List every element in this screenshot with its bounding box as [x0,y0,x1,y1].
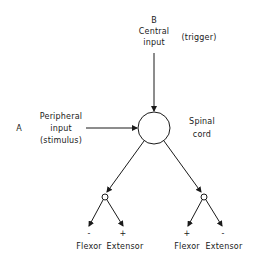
left-flexor-arrow [89,200,103,226]
peripheral-input-line2: input [36,124,86,133]
spinal-cord-line1: Spinal [184,117,220,126]
left-extensor-label: Extensor [105,242,145,251]
peripheral-input-letter: A [13,124,25,133]
central-input-note: (trigger) [178,33,220,42]
peripheral-input-line1: Peripheral [36,112,86,121]
left-motor-arrow [107,141,144,192]
right-branch-node [201,194,207,200]
left-extensor-sign: + [117,229,129,238]
left-branch-node [102,194,108,200]
right-flexor-label: Flexor [170,242,204,251]
right-motor-arrow [164,141,201,192]
right-flexor-arrow [188,200,202,226]
spinal-cord-node [138,112,170,144]
right-extensor-label: Extensor [204,242,244,251]
left-extensor-arrow [107,200,123,226]
spinal-cord-line2: cord [184,130,220,139]
right-extensor-arrow [206,200,222,226]
left-flexor-sign: - [83,229,95,238]
right-extensor-sign: - [217,229,229,238]
central-input-letter: B [148,16,160,25]
right-flexor-sign: + [181,229,193,238]
peripheral-input-line3: (stimulus) [36,136,86,145]
central-input-line2: input [134,38,174,47]
left-flexor-label: Flexor [72,242,106,251]
central-input-line1: Central [134,27,174,36]
